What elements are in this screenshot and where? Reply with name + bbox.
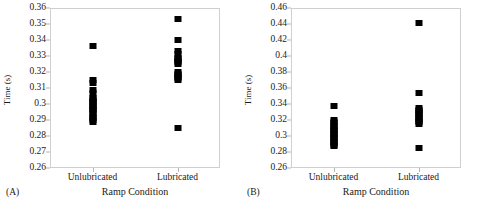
y-tick-label: 0.42 xyxy=(251,35,287,45)
y-tick-label: 0.28 xyxy=(10,131,46,141)
x-category-label: Unlubricated xyxy=(309,172,359,183)
y-tick-label: 0.36 xyxy=(10,3,46,13)
y-tick-label: 0.4 xyxy=(251,51,287,61)
chart-panel-a: Time (s) 0.260.270.280.290.30.310.320.33… xyxy=(0,0,240,209)
y-tick-label: 0.44 xyxy=(251,19,287,29)
y-tick-mark xyxy=(287,8,291,9)
y-tick-mark xyxy=(287,168,291,169)
y-tick-mark xyxy=(46,88,50,89)
data-point-marker xyxy=(415,20,422,26)
y-tick-label: 0.31 xyxy=(10,83,46,93)
data-point-marker xyxy=(174,16,181,22)
y-tick-label: 0.46 xyxy=(251,3,287,13)
x-category-label: Lubricated xyxy=(157,172,198,183)
data-point-marker xyxy=(330,103,337,109)
y-tick-label: 0.35 xyxy=(10,19,46,29)
y-tick-label: 0.32 xyxy=(10,67,46,77)
y-tick-label: 0.3 xyxy=(10,99,46,109)
data-point-marker xyxy=(174,125,181,131)
panel-tag-a: (A) xyxy=(6,186,19,198)
data-point-marker xyxy=(174,37,181,43)
y-tick-mark xyxy=(46,72,50,73)
y-tick-mark xyxy=(287,120,291,121)
y-tick-mark xyxy=(46,24,50,25)
y-tick-label: 0.34 xyxy=(10,35,46,45)
y-tick-mark xyxy=(287,104,291,105)
y-tick-mark xyxy=(46,8,50,9)
y-tick-label: 0.26 xyxy=(251,163,287,173)
y-tick-mark xyxy=(46,152,50,153)
panel-tag-b: (B) xyxy=(247,186,260,198)
y-tick-mark xyxy=(46,120,50,121)
y-tick-label: 0.26 xyxy=(10,163,46,173)
y-axis-ticks-a: 0.260.270.280.290.30.310.320.330.340.350… xyxy=(10,8,46,168)
x-category-label: Unlubricated xyxy=(68,172,118,183)
x-axis-title-b: Ramp Condition xyxy=(291,186,461,198)
x-axis-title-a: Ramp Condition xyxy=(50,186,220,198)
figure-root: Time (s) 0.260.270.280.290.30.310.320.33… xyxy=(0,0,481,209)
x-category-label: Lubricated xyxy=(398,172,439,183)
data-point-marker xyxy=(415,145,422,151)
y-tick-mark xyxy=(46,136,50,137)
y-tick-label: 0.34 xyxy=(251,99,287,109)
y-tick-mark xyxy=(46,40,50,41)
y-tick-mark xyxy=(287,56,291,57)
y-tick-mark xyxy=(287,88,291,89)
y-tick-mark xyxy=(287,152,291,153)
y-tick-label: 0.33 xyxy=(10,51,46,61)
y-tick-mark xyxy=(287,136,291,137)
y-tick-label: 0.36 xyxy=(251,83,287,93)
y-tick-mark xyxy=(287,72,291,73)
y-tick-label: 0.32 xyxy=(251,115,287,125)
y-tick-label: 0.38 xyxy=(251,67,287,77)
plot-area-a xyxy=(50,8,220,168)
data-point-marker xyxy=(89,43,96,49)
y-tick-mark xyxy=(46,168,50,169)
data-point-marker xyxy=(415,90,422,96)
plot-area-b xyxy=(291,8,461,168)
y-axis-ticks-b: 0.260.280.30.320.340.360.380.40.420.440.… xyxy=(251,8,287,168)
y-tick-label: 0.28 xyxy=(251,147,287,157)
y-tick-label: 0.29 xyxy=(10,115,46,125)
y-tick-label: 0.27 xyxy=(10,147,46,157)
data-point-marker xyxy=(89,119,96,125)
chart-panel-b: Time (s) 0.260.280.30.320.340.360.380.40… xyxy=(241,0,481,209)
y-tick-mark xyxy=(46,104,50,105)
data-point-marker xyxy=(174,77,181,83)
y-tick-label: 0.3 xyxy=(251,131,287,141)
data-point-marker xyxy=(89,80,96,86)
y-tick-mark xyxy=(46,56,50,57)
y-tick-mark xyxy=(287,24,291,25)
data-point-marker xyxy=(330,143,337,149)
data-point-marker xyxy=(415,121,422,127)
data-point-marker xyxy=(174,61,181,67)
y-tick-mark xyxy=(287,40,291,41)
